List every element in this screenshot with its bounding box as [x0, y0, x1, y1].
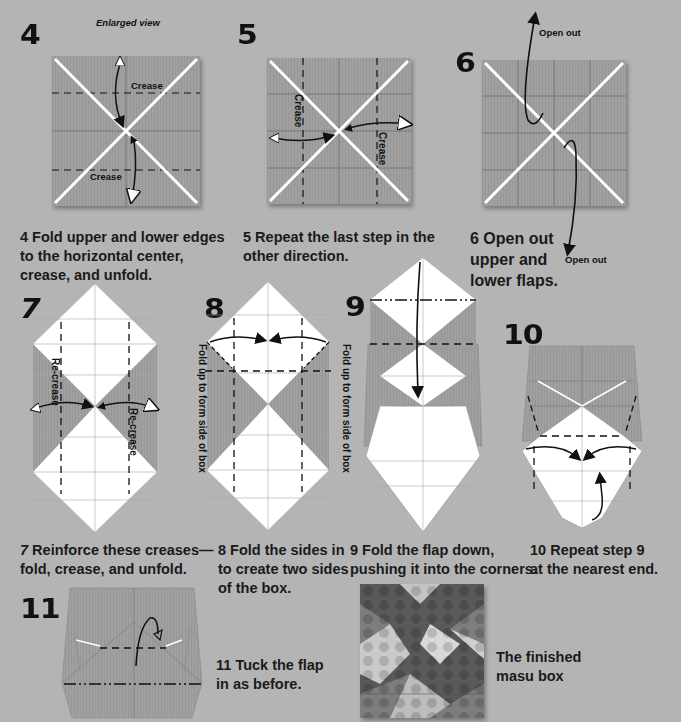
crease-label-bottom: Crease	[90, 171, 122, 182]
step-6-caption-number: 6	[470, 230, 479, 247]
step-4-number: 4	[20, 22, 40, 48]
recrease-label-left: Re-crease	[50, 358, 61, 406]
step-11-diagram	[62, 588, 204, 718]
step-10-number: 10	[503, 322, 542, 348]
open-out-label-top: Open out	[539, 27, 581, 38]
step-11-caption-number: 11	[216, 657, 231, 673]
step-8-caption-number: 8	[218, 542, 226, 558]
step-9-caption-number: 9	[350, 542, 358, 558]
fold-side-label-right: Fold up to form side of box	[341, 344, 352, 473]
crease-label-left: Crease	[293, 94, 304, 127]
step-10-caption-number: 10	[530, 542, 546, 558]
step-8-diagram	[205, 280, 331, 532]
step-10-caption: 10 Repeat step 9 at the nearest end.	[530, 541, 680, 579]
crease-label-top: Crease	[131, 80, 163, 91]
step-9-caption: 9 Fold the flap down, pushing it into th…	[350, 541, 550, 579]
finished-caption: The finished masu box	[496, 648, 636, 686]
step-4-caption-number: 4	[20, 229, 28, 245]
step-5-diagram	[267, 58, 413, 206]
step-11-number: 11	[20, 596, 59, 622]
step-4-caption: 4 Fold upper and lower edges to the hori…	[20, 228, 240, 285]
step-11-caption: 11 Tuck the flap in as before.	[216, 656, 356, 694]
crease-label-right: Crease	[377, 132, 388, 165]
step-5-number: 5	[237, 22, 257, 48]
step-9-diagram	[360, 256, 486, 532]
step-10-diagram	[520, 346, 644, 528]
finished-masu-box-photo	[360, 584, 486, 720]
step-7-caption-number: 7	[20, 542, 28, 558]
step-4-diagram	[52, 56, 202, 208]
step-5-caption-number: 5	[243, 229, 251, 245]
fold-side-label-left: Fold up to form side of box	[197, 344, 208, 473]
enlarged-view-label: Enlarged view	[96, 17, 160, 28]
step-6-caption: 6 Open out upper and lower flaps.	[470, 228, 580, 291]
step-7-caption: 7 Reinforce these creases— fold, crease,…	[20, 541, 240, 579]
step-7-diagram	[30, 282, 160, 534]
recrease-label-right: Re-crease	[128, 408, 139, 456]
